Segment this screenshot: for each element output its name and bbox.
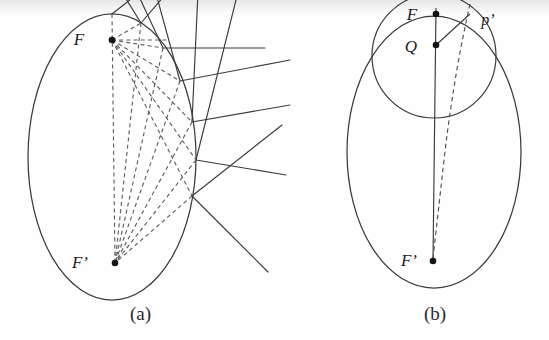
point-dot-Q-b (433, 42, 440, 49)
focus-dot-Fprime-a (112, 260, 119, 267)
panel-b-group: F Q F’ p’ (347, 0, 521, 288)
ellipse-a (28, 14, 196, 300)
tangent-line-11 (196, 160, 286, 175)
tangent-line-12 (192, 125, 282, 196)
focal-ray-in-1 (112, 23, 141, 40)
tangent-line-13 (192, 196, 268, 272)
tangent-line-10 (196, 0, 238, 160)
focal-ray-out-6 (115, 196, 192, 263)
focal-ray-in-5 (112, 40, 196, 160)
focus-dot-F-b (433, 11, 440, 18)
caption-panel-a: (a) (130, 303, 151, 325)
tangent-line-2 (118, 0, 141, 23)
label-F-a: F (73, 30, 85, 49)
figure-root: F F’ F Q F’ p’ (a) (b) (0, 0, 549, 340)
focal-ray-out-5 (115, 160, 196, 263)
panel-a-focal-rays (112, 14, 196, 263)
focal-ray-out-3 (115, 81, 180, 263)
label-p-prime-b: p’ (480, 11, 494, 29)
inner-circle-b (372, 0, 496, 118)
label-Fprime-a: F’ (71, 253, 88, 272)
focal-ray-axis (112, 14, 115, 263)
focal-ray-out-4 (115, 122, 192, 263)
label-F-b: F (406, 5, 418, 24)
label-Fprime-b: F’ (400, 251, 417, 270)
focus-dot-Fprime-b (430, 258, 437, 265)
panel-a-group: F F’ (28, 0, 290, 300)
label-Q-b: Q (405, 37, 417, 56)
caption-panel-b: (b) (424, 303, 446, 325)
focal-ray-in-6 (112, 40, 192, 196)
focal-ray-out-2 (115, 48, 163, 263)
focus-dot-F-a (109, 37, 116, 44)
tangent-line-7 (180, 60, 290, 81)
tangent-line-8 (192, 0, 198, 122)
geometry-figure: F F’ F Q F’ p’ (0, 0, 549, 340)
